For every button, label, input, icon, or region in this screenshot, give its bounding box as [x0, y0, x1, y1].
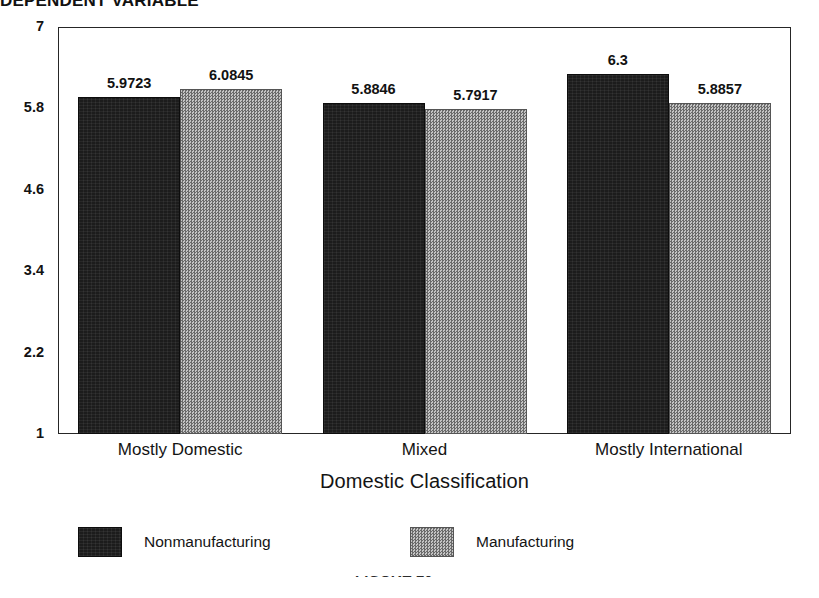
- clipped-footer-text: FIGURE 10: [355, 576, 433, 580]
- chart-legend: NonmanufacturingManufacturing: [0, 522, 819, 568]
- x-axis-category-label: Mostly International: [547, 440, 791, 460]
- x-axis-category-label: Mostly Domestic: [58, 440, 302, 460]
- legend-label: Nonmanufacturing: [144, 533, 271, 551]
- bar-value-label: 6.3: [567, 52, 669, 68]
- bar-value-label: 5.8846: [323, 81, 425, 97]
- legend-swatch-light: [410, 527, 454, 557]
- x-axis-category-label: Mixed: [302, 440, 546, 460]
- bar-value-label: 5.9723: [78, 75, 180, 91]
- bar-nonmanufacturing-mixed[interactable]: [323, 103, 425, 434]
- y-axis-tick-label: 1: [0, 425, 44, 441]
- bar-manufacturing-mostly-international[interactable]: [669, 103, 771, 434]
- y-axis-tick-label: 2.2: [0, 344, 44, 360]
- bars-layer: 5.97236.08455.88465.79176.35.8857: [58, 27, 791, 434]
- clipped-top-title: DEPENDENT VARIABLE: [0, 0, 430, 9]
- clipped-footer-label: FIGURE 10: [355, 576, 475, 598]
- bar-manufacturing-mixed[interactable]: [425, 109, 527, 434]
- bar-value-label: 5.7917: [425, 87, 527, 103]
- y-axis-tick-label: 7: [0, 18, 44, 34]
- legend-swatch-dark: [78, 527, 122, 557]
- bar-nonmanufacturing-mostly-international[interactable]: [567, 74, 669, 434]
- bar-value-label: 6.0845: [180, 67, 282, 83]
- y-axis-tick-labels: 12.23.44.65.87: [0, 27, 50, 434]
- clipped-top-title-text: DEPENDENT VARIABLE: [0, 0, 430, 9]
- bar-nonmanufacturing-mostly-domestic[interactable]: [78, 97, 180, 434]
- legend-label: Manufacturing: [476, 533, 574, 551]
- x-axis-title: Domestic Classification: [58, 470, 791, 493]
- bar-value-label: 5.8857: [669, 81, 771, 97]
- y-axis-tick-label: 5.8: [0, 99, 44, 115]
- x-axis-category-labels: Mostly DomesticMixedMostly International: [58, 440, 791, 466]
- y-axis-tick-label: 3.4: [0, 262, 44, 278]
- bar-manufacturing-mostly-domestic[interactable]: [180, 89, 282, 434]
- y-axis-tick-label: 4.6: [0, 181, 44, 197]
